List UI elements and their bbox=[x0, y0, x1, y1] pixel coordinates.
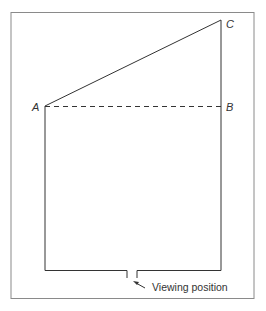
line-a-c bbox=[45, 20, 221, 106]
outer-frame bbox=[11, 13, 254, 299]
room-left-wall bbox=[45, 106, 127, 278]
label-b: B bbox=[226, 101, 233, 113]
viewing-position-caption: Viewing position bbox=[152, 281, 228, 293]
label-a: A bbox=[31, 101, 39, 113]
label-c: C bbox=[226, 18, 234, 30]
room-right-wall bbox=[137, 20, 221, 278]
diagram-canvas: A B C Viewing position bbox=[0, 0, 266, 311]
arrow-icon bbox=[133, 281, 145, 288]
